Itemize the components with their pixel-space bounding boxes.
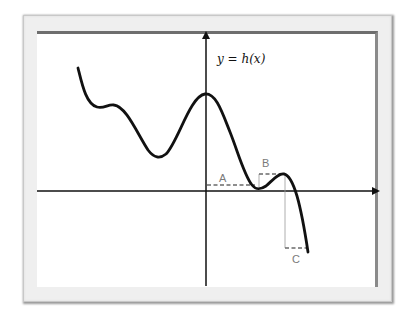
marker-b-label: B bbox=[262, 157, 269, 169]
function-curve bbox=[78, 68, 308, 252]
axes bbox=[37, 31, 380, 286]
y-axis-arrow-icon bbox=[202, 31, 210, 39]
x-axis-arrow-icon bbox=[372, 187, 380, 195]
marker-lines bbox=[207, 174, 306, 248]
function-label: y = h(x) bbox=[216, 52, 266, 66]
marker-c-label: C bbox=[292, 253, 300, 265]
marker-a-label: A bbox=[219, 172, 227, 184]
graph: y = h(x) A B C bbox=[0, 0, 412, 322]
